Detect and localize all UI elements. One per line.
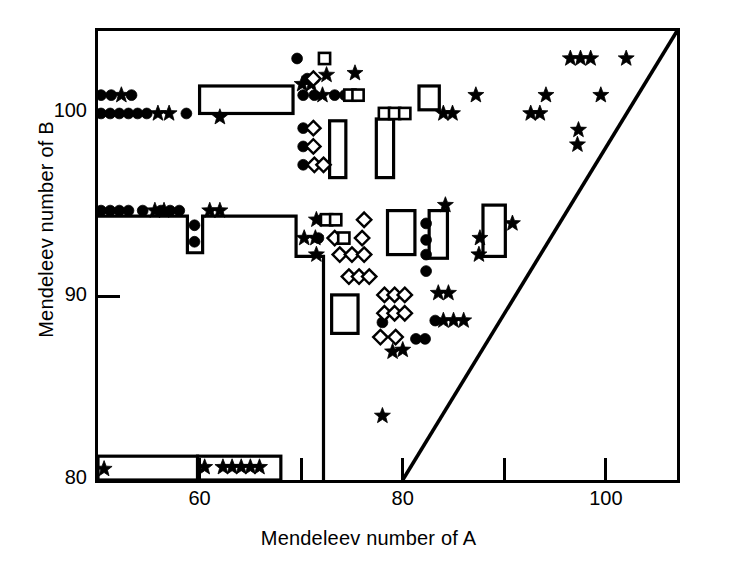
x-tick-label-100: 100 — [566, 487, 646, 510]
datapoint-filled-star — [374, 407, 390, 422]
y-tick-label-100: 100 — [33, 99, 87, 122]
x-axis-label: Mendeleev number of A — [0, 527, 737, 550]
datapoint-filled-star — [593, 87, 609, 102]
box-upper-mid-tall — [330, 121, 346, 178]
plot-area — [95, 28, 680, 483]
datapoint-filled-circle — [126, 90, 137, 101]
datapoint-open-square — [330, 214, 341, 225]
datapoint-filled-circle — [137, 205, 148, 216]
datapoint-filled-circle — [189, 236, 200, 247]
box-bottom-left — [98, 456, 198, 480]
datapoint-filled-star — [347, 65, 363, 80]
datapoint-filled-circle — [420, 333, 431, 344]
datapoint-filled-star — [618, 50, 634, 65]
figure-root: Mendeleev number of B Mendeleev number o… — [0, 0, 737, 564]
box-upper-left-wide — [200, 86, 293, 113]
datapoint-open-diamond — [306, 139, 320, 153]
datapoint-filled-circle — [329, 90, 340, 101]
datapoint-filled-star — [570, 122, 586, 137]
datapoint-filled-circle — [421, 249, 432, 260]
datapoint-filled-star — [569, 136, 585, 151]
phase-boundary-step — [98, 216, 324, 480]
datapoint-filled-circle — [98, 90, 106, 101]
datapoint-open-diamond — [398, 288, 412, 302]
datapoint-filled-circle — [106, 90, 117, 101]
y-tick-label-90: 90 — [33, 283, 87, 306]
datapoint-filled-circle — [421, 266, 432, 277]
y-axis-label: Mendeleev number of B — [35, 80, 58, 380]
plot-canvas — [98, 31, 677, 480]
datapoint-filled-circle — [189, 220, 200, 231]
datapoint-filled-circle — [174, 205, 185, 216]
datapoint-open-diamond — [357, 247, 371, 261]
datapoint-open-square — [352, 90, 363, 101]
datapoint-filled-star — [538, 87, 554, 102]
datapoint-open-diamond — [357, 213, 371, 227]
datapoint-open-square — [319, 53, 330, 64]
datapoint-open-diamond — [373, 330, 387, 344]
x-tick-80 — [401, 458, 404, 480]
box-upper-small — [419, 86, 439, 110]
datapoint-filled-star — [113, 87, 129, 102]
datapoint-filled-circle — [141, 108, 152, 119]
datapoint-filled-circle — [123, 205, 134, 216]
series-filled-star — [98, 50, 634, 476]
x-tick-100 — [604, 458, 607, 480]
box-mid-c — [483, 205, 505, 256]
x-tick-label-60: 60 — [160, 487, 240, 510]
y-tick-label-80: 80 — [33, 466, 87, 489]
datapoint-open-diamond — [306, 121, 320, 135]
datapoint-open-diamond — [398, 306, 412, 320]
datapoint-filled-circle — [421, 218, 432, 229]
x-tick-60 — [198, 458, 201, 480]
datapoint-open-square — [338, 232, 349, 243]
y-tick-90 — [98, 295, 120, 298]
datapoint-open-square — [399, 108, 410, 119]
box-upper-right-tall — [376, 119, 393, 178]
box-lower-mid — [332, 295, 358, 333]
datapoint-open-diamond — [355, 231, 369, 245]
y-tick-100 — [98, 112, 120, 115]
datapoint-filled-circle — [298, 90, 309, 101]
datapoint-open-diamond — [362, 269, 376, 283]
x-tick-90 — [503, 458, 506, 480]
datapoint-open-diamond — [388, 330, 402, 344]
datapoint-filled-circle — [292, 53, 303, 64]
box-mid-a — [388, 211, 415, 255]
datapoint-filled-star — [161, 105, 177, 120]
x-tick-70 — [300, 458, 303, 480]
datapoint-filled-star — [468, 87, 484, 102]
datapoint-filled-circle — [421, 235, 432, 246]
x-tick-label-80: 80 — [363, 487, 443, 510]
box-mid-b — [429, 211, 447, 259]
datapoint-filled-circle — [181, 108, 192, 119]
